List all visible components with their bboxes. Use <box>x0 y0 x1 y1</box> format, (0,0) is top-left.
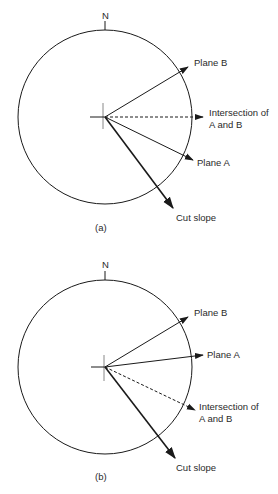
cut-slope-label: Cut slope <box>176 462 216 473</box>
cut-slope-vector <box>105 117 173 208</box>
north-label: N <box>102 259 109 270</box>
stereonet-figure: N Plane B Intersection of A and B Plane … <box>0 0 278 494</box>
plane-b-label: Plane B <box>194 57 227 68</box>
north-label: N <box>102 10 109 21</box>
caption-b: (b) <box>95 471 107 482</box>
diagram-a: N Plane B Intersection of A and B Plane … <box>18 10 269 233</box>
plane-a-label: Plane A <box>207 349 240 360</box>
cut-slope-label: Cut slope <box>176 212 216 223</box>
plane-a-label: Plane A <box>197 157 230 168</box>
intersection-vector <box>105 367 195 410</box>
intersection-label-line2: A and B <box>199 413 232 424</box>
plane-b-label: Plane B <box>194 307 227 318</box>
plane-b-vector <box>105 67 188 117</box>
diagram-b: N Plane B Plane A Intersection of A and … <box>18 259 259 482</box>
plane-a-vector <box>105 355 203 367</box>
plane-a-vector <box>105 117 193 160</box>
cut-slope-vector <box>105 367 175 458</box>
intersection-label-line2: A and B <box>209 119 242 130</box>
plane-b-vector <box>105 317 188 367</box>
intersection-label-line1: Intersection of <box>199 401 259 412</box>
caption-a: (a) <box>95 222 107 233</box>
intersection-label-line1: Intersection of <box>209 107 269 118</box>
